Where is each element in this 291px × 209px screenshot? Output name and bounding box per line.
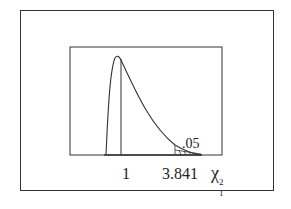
- axis-label: χ 2 1: [211, 163, 227, 184]
- tick-label-critical: 3.841: [162, 165, 198, 183]
- axis-sup: 2: [219, 177, 224, 187]
- tick-label-1: 1: [122, 165, 130, 183]
- axis-sub: 1: [219, 188, 224, 198]
- tail-area-label: .05: [182, 136, 200, 152]
- axis-symbol: χ: [211, 163, 219, 183]
- chi-square-plot: [0, 0, 291, 209]
